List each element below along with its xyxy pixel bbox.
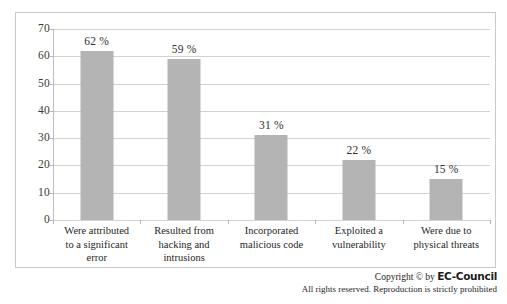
- x-category-label: Were attributedto a significanterror: [53, 224, 140, 265]
- bar-value-label: 31 %: [259, 120, 284, 132]
- x-category-label-line: Incorporated: [228, 224, 315, 238]
- x-category-label-line: Were attributed: [53, 224, 140, 238]
- x-category-label: Resulted fromhacking andintrusions: [140, 224, 227, 265]
- y-tick-label: 30: [16, 132, 50, 144]
- x-axis-category-labels: Were attributedto a significanterrorResu…: [53, 224, 490, 268]
- x-category-label-line: malicious code: [228, 238, 315, 252]
- bar-slot: 31 %: [228, 29, 315, 220]
- x-category-label-line: intrusions: [140, 251, 227, 265]
- x-category-label-line: hacking and: [140, 238, 227, 252]
- x-category-label-line: vulnerability: [315, 238, 402, 252]
- plot-area: 62 %59 %31 %22 %15 %: [53, 29, 490, 220]
- x-category-label-line: to a significant: [53, 238, 140, 252]
- x-category-label-line: error: [53, 251, 140, 265]
- ec-council-brand: EC-Council: [437, 270, 497, 282]
- copyright-text: Copyright © by EC-Council: [302, 270, 497, 283]
- bar[interactable]: [255, 135, 288, 220]
- bar-slot: 59 %: [140, 29, 227, 220]
- y-tick-label: 60: [16, 51, 50, 63]
- rights-reserved-text: All rights reserved. Reproduction is str…: [302, 283, 497, 295]
- chart-frame: 010203040506070 62 %59 %31 %22 %15 % Wer…: [15, 12, 496, 268]
- x-category-label: Incorporatedmalicious code: [228, 224, 315, 251]
- x-tick-mark: [490, 220, 491, 224]
- bar-slot: 15 %: [403, 29, 490, 220]
- bar-slot: 62 %: [53, 29, 140, 220]
- footer: Copyright © by EC-Council All rights res…: [302, 270, 497, 295]
- x-category-label-line: Exploited a: [315, 224, 402, 238]
- bar[interactable]: [430, 179, 463, 220]
- y-tick-label: 50: [16, 78, 50, 90]
- y-tick-label: 10: [16, 187, 50, 199]
- y-tick-label: 70: [16, 23, 50, 35]
- x-category-label-line: physical threats: [403, 238, 490, 252]
- y-tick-label: 40: [16, 105, 50, 117]
- bar-value-label: 22 %: [346, 145, 371, 157]
- bar-value-label: 15 %: [434, 164, 459, 176]
- bar[interactable]: [80, 51, 113, 220]
- x-category-label: Exploited avulnerability: [315, 224, 402, 251]
- x-category-label-line: Were due to: [403, 224, 490, 238]
- y-tick-label: 0: [16, 214, 50, 226]
- bar-value-label: 62 %: [84, 36, 109, 48]
- y-axis-tick-labels: 010203040506070: [16, 13, 54, 269]
- bar[interactable]: [342, 160, 375, 220]
- y-tick-label: 20: [16, 160, 50, 172]
- gridline: [53, 220, 490, 221]
- x-category-label-line: Resulted from: [140, 224, 227, 238]
- bar-value-label: 59 %: [172, 44, 197, 56]
- bar[interactable]: [168, 59, 201, 220]
- copyright-prefix: Copyright © by: [375, 272, 437, 282]
- bar-slot: 22 %: [315, 29, 402, 220]
- x-category-label: Were due tophysical threats: [403, 224, 490, 251]
